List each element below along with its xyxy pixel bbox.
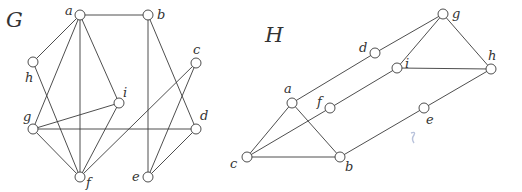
graph-h-title: H	[264, 23, 284, 47]
vertex-h-h	[486, 64, 496, 74]
vertex-label-h-f: f	[316, 94, 324, 109]
vertex-label-g-h: h	[25, 70, 33, 85]
vertex-h-d	[370, 48, 380, 58]
edge-h-d-a	[292, 53, 375, 103]
edge-g-i-g	[33, 103, 119, 129]
edge-h-g-h	[443, 14, 491, 69]
vertex-label-h-c: c	[230, 156, 238, 171]
edge-g-c-e	[148, 63, 196, 177]
vertex-g-a	[75, 10, 85, 20]
vertex-label-g-a: a	[65, 3, 73, 18]
vertex-g-b	[143, 10, 153, 20]
vertex-label-h-h: h	[488, 48, 496, 63]
edge-h-a-c	[247, 103, 292, 157]
vertex-h-b	[335, 152, 345, 162]
graph-g-edges	[33, 15, 196, 177]
vertex-label-g-i: i	[123, 85, 127, 100]
vertex-h-c	[242, 152, 252, 162]
vertex-label-g-g: g	[23, 109, 31, 124]
vertex-g-g	[28, 124, 38, 134]
edge-g-d-e	[148, 129, 196, 177]
vertex-label-h-i: i	[405, 56, 409, 71]
vertex-label-g-f: f	[85, 175, 93, 190]
vertex-label-h-b: b	[345, 159, 353, 174]
vertex-g-c	[191, 58, 201, 68]
edge-g-g-f	[33, 129, 80, 177]
vertex-h-a	[287, 98, 297, 108]
edge-g-i-f	[80, 103, 119, 177]
vertex-label-h-d: d	[359, 40, 367, 55]
edge-h-g-i	[397, 14, 443, 68]
scan-artifact-mark	[411, 132, 415, 143]
vertex-g-h	[28, 57, 38, 67]
edge-h-h-e	[424, 69, 491, 108]
vertex-label-h-g: g	[452, 6, 460, 21]
edge-g-b-d	[148, 15, 196, 129]
graph-g-title: G	[6, 8, 23, 32]
vertex-h-f	[325, 103, 335, 113]
edge-h-g-d	[375, 14, 443, 53]
edge-h-f-c	[247, 108, 330, 157]
edge-g-c-f	[80, 63, 196, 177]
graph-h: gdihafecb H	[230, 6, 496, 174]
vertex-g-e	[143, 172, 153, 182]
vertex-label-h-e: e	[426, 112, 434, 127]
vertex-label-g-b: b	[157, 7, 165, 22]
vertex-label-h-a: a	[284, 81, 292, 96]
graph-g: abchigdfe G	[6, 3, 208, 190]
vertex-h-i	[392, 63, 402, 73]
vertex-g-d	[191, 124, 201, 134]
vertex-g-f	[75, 172, 85, 182]
edge-g-a-g	[33, 15, 80, 129]
edge-g-a-i	[80, 15, 119, 103]
graph-diagram: abchigdfe G gdihafecb H	[0, 0, 522, 192]
edge-h-i-h	[397, 68, 491, 69]
vertex-label-g-e: e	[132, 169, 140, 184]
vertex-label-g-c: c	[193, 42, 201, 57]
vertex-h-g	[438, 9, 448, 19]
edge-g-h-f	[33, 62, 80, 177]
edge-g-a-h	[33, 15, 80, 62]
vertex-label-g-d: d	[200, 108, 208, 123]
